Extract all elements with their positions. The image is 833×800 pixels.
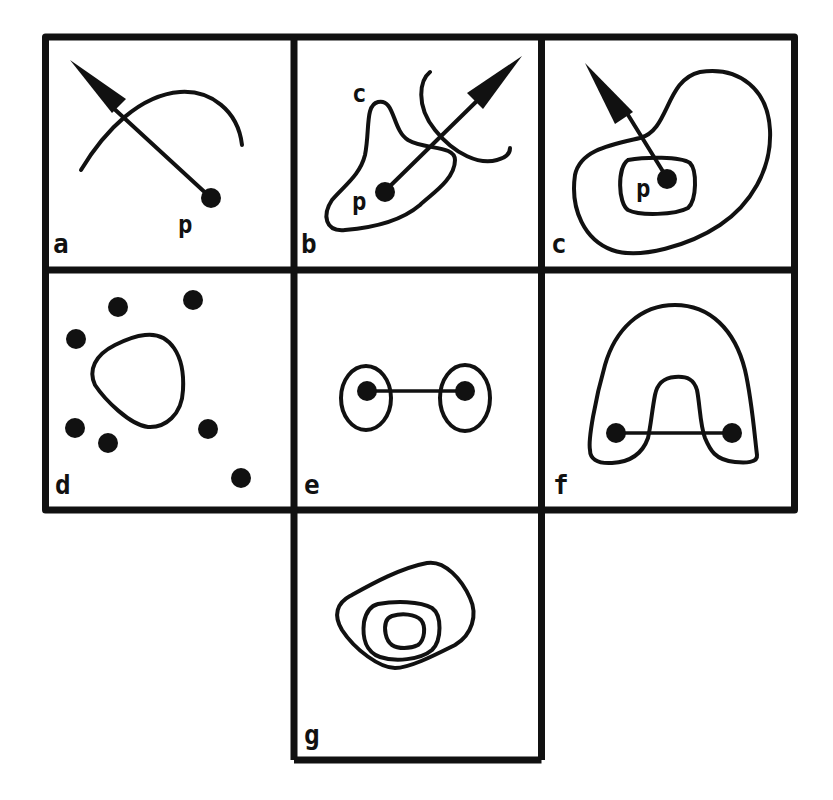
panel-f-label: f: [553, 470, 569, 500]
point-p: [657, 169, 677, 189]
panel-e: e: [304, 365, 490, 500]
point-p: [375, 182, 395, 202]
panel-a-label: a: [53, 229, 69, 259]
right-point: [722, 423, 742, 443]
point-p-label: p: [178, 211, 192, 239]
point-p-label: p: [636, 175, 650, 203]
left-point: [606, 423, 626, 443]
panel-g: g: [304, 563, 474, 750]
panel-c: p c: [551, 63, 770, 259]
right-point: [455, 381, 475, 401]
left-point: [357, 381, 377, 401]
figure: p a c p b p c d: [0, 0, 833, 800]
point: [183, 290, 203, 310]
point: [231, 468, 251, 488]
point-p-label: p: [352, 188, 366, 216]
arrow-head-icon: [585, 63, 633, 124]
point-c-label: c: [352, 80, 366, 108]
panel-c-label: c: [551, 229, 567, 259]
arrow-shaft: [386, 96, 482, 190]
scattered-points: [65, 290, 251, 488]
panel-g-label: g: [304, 720, 320, 750]
panel-d: d: [55, 290, 251, 500]
point: [65, 418, 85, 438]
panel-d-label: d: [55, 470, 71, 500]
panel-b-label: b: [301, 229, 317, 259]
arrow-head-icon: [467, 56, 522, 109]
inner-closed-curve: [385, 614, 424, 648]
point: [98, 433, 118, 453]
panel-b: c p b: [301, 56, 522, 259]
panel-f: f: [553, 305, 757, 500]
point: [198, 419, 218, 439]
closed-curve-c: [326, 102, 455, 231]
point-p: [201, 188, 221, 208]
arrow-head-icon: [70, 60, 126, 113]
middle-closed-curve: [364, 602, 440, 660]
point: [108, 297, 128, 317]
point: [66, 329, 86, 349]
closed-curve: [92, 335, 183, 427]
panel-e-label: e: [304, 470, 320, 500]
panel-a: p a: [53, 60, 242, 259]
arrow-shaft: [110, 105, 210, 197]
